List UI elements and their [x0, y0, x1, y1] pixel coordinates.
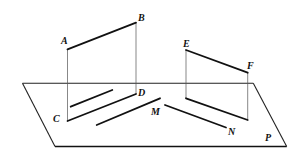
label-m: M [150, 106, 161, 117]
inner-parallel-line [71, 90, 113, 107]
segment-ab [68, 23, 137, 50]
plane-abcd [68, 23, 137, 121]
plane-left-edge [23, 83, 56, 146]
plane-ef [186, 50, 248, 120]
label-a: A [60, 35, 68, 46]
label-c: C [53, 113, 60, 124]
geometry-diagram: A B C D E F M N P [0, 0, 305, 159]
label-n: N [227, 126, 236, 137]
label-b: B [137, 12, 145, 23]
label-p: P [265, 132, 272, 143]
segment-cd [68, 94, 137, 121]
label-d: D [137, 87, 145, 98]
label-f: F [246, 60, 254, 71]
segment-ef [186, 50, 248, 73]
label-e: E [182, 38, 190, 49]
